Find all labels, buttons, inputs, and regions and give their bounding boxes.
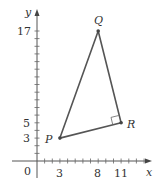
x-tick-label-11: 11 [114,167,128,180]
x-tick-label-3: 3 [56,167,63,180]
label-R: R [126,118,135,131]
y-tick-label-5: 5 [23,117,30,130]
y-axis-label: y [24,6,32,19]
label-Q: Q [94,14,103,27]
point-R [119,121,123,125]
x-axis-arrow-icon [145,159,152,164]
y-tick-label-17: 17 [17,25,31,38]
point-P [58,136,62,140]
x-tick-label-8: 8 [94,167,101,180]
x-axis-label: x [146,166,153,179]
y-tick-label-3: 3 [23,132,30,145]
coordinate-diagram: y x 0 3 5 17 3 8 11 P Q R [0,0,159,195]
origin-label: 0 [24,165,31,178]
point-Q [96,29,100,33]
label-P: P [44,133,53,146]
y-axis-arrow-icon [35,9,40,16]
